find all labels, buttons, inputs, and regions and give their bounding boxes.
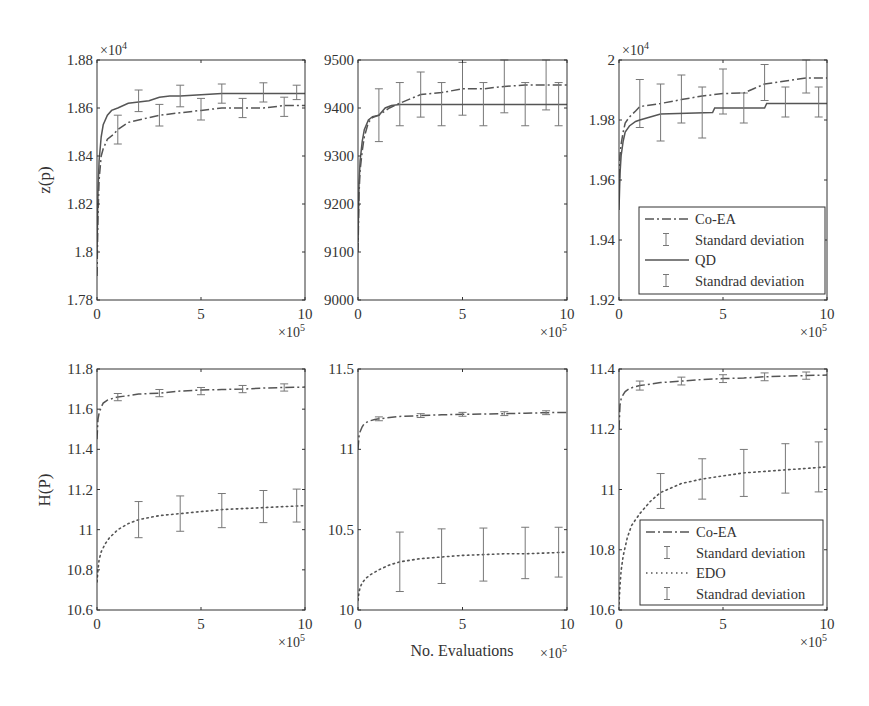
y-tick-label: 11.8 <box>67 361 93 377</box>
x-tick-label: 10 <box>560 306 575 322</box>
errorbar <box>293 489 301 522</box>
errorbar <box>218 494 226 528</box>
errorbar <box>293 85 301 99</box>
x-tick-label: 5 <box>719 306 727 322</box>
errorbar <box>802 60 810 93</box>
y-tick-label: 1.94 <box>589 232 616 248</box>
y-tick-label: 9200 <box>324 196 354 212</box>
y-tick-label: 9500 <box>324 52 354 68</box>
x-tick-label: 0 <box>354 306 362 322</box>
axes-box <box>97 60 305 300</box>
x-tick-label: 10 <box>298 306 313 322</box>
legend-label: Standrad deviation <box>696 586 806 602</box>
errorbar <box>740 449 748 496</box>
x-tick-label: 10 <box>820 616 835 632</box>
y-tick-label: 11 <box>79 522 93 538</box>
x-tick-label: 5 <box>459 306 467 322</box>
y-tick-label: 2 <box>608 52 616 68</box>
axes-box <box>358 369 567 610</box>
axis-multiplier: ×105 <box>540 322 567 340</box>
y-tick-label: 10.8 <box>589 542 615 558</box>
legend-label: QD <box>695 252 716 268</box>
series-line-qd <box>619 104 827 211</box>
y-tick-label: 11.4 <box>589 361 615 377</box>
y-tick-label: 1.84 <box>67 148 94 164</box>
errorbar <box>135 502 143 538</box>
errorbar <box>479 528 487 581</box>
y-tick-label: 1.96 <box>589 172 616 188</box>
y-tick-label: 1.78 <box>67 292 93 308</box>
errorbar <box>781 444 789 493</box>
chart-panel-bottom-right: 051010.610.81111.211.4×105Co-EAStandard … <box>589 361 835 650</box>
y-tick-label: 1.8 <box>74 244 93 260</box>
series-line-co-ea <box>97 106 305 276</box>
errorbar <box>761 65 769 101</box>
axis-multiplier: ×104 <box>100 40 127 58</box>
y-tick-label: 1.82 <box>67 196 93 212</box>
y-tick-label: 11 <box>340 441 354 457</box>
errorbar <box>657 84 665 141</box>
chart-panel-top-left: 05101.781.81.821.841.861.88×104×105 <box>67 40 313 340</box>
y-tick-label: 11.5 <box>328 361 354 377</box>
chart-panel-bottom-middle: 05101010.51111.5×105 <box>328 361 575 661</box>
series-line-edo <box>97 506 305 582</box>
y-tick-label: 1.92 <box>589 292 615 308</box>
y-tick-label: 11 <box>601 482 615 498</box>
x-tick-label: 10 <box>560 616 575 632</box>
errorbar <box>280 97 288 116</box>
legend-label: Standard deviation <box>695 232 805 248</box>
y-tick-label: 9400 <box>324 100 354 116</box>
errorbar <box>781 87 789 117</box>
errorbar <box>135 90 143 112</box>
axis-multiplier: ×105 <box>800 322 827 340</box>
errorbar <box>197 98 205 120</box>
legend-label: Co-EA <box>695 211 737 227</box>
y-tick-label: 1.86 <box>67 100 94 116</box>
x-tick-label: 10 <box>298 616 313 632</box>
series-line-edo <box>358 552 567 600</box>
y-tick-label: 11.6 <box>67 401 93 417</box>
y-tick-label: 11.2 <box>589 421 615 437</box>
x-tick-label: 5 <box>197 616 205 632</box>
x-tick-label: 0 <box>354 616 362 632</box>
xlabel: No. Evaluations <box>410 642 513 659</box>
chart-panel-top-right: 05101.921.941.961.982×104×105Co-EAStanda… <box>589 40 835 340</box>
chart-panel-bottom-left: 051010.610.81111.211.411.611.8×105 <box>67 361 313 650</box>
axis-multiplier: ×105 <box>278 632 305 650</box>
chart-panel-top-middle: 0510900091009200930094009500×105 <box>324 52 575 340</box>
y-tick-label: 10.8 <box>67 562 93 578</box>
errorbar <box>815 87 823 117</box>
legend-label: Co-EA <box>696 524 738 540</box>
errorbar <box>114 115 122 144</box>
x-tick-label: 5 <box>459 616 467 632</box>
y-tick-label: 1.88 <box>67 52 93 68</box>
x-tick-label: 0 <box>93 306 101 322</box>
errorbar <box>555 527 563 577</box>
legend-label: Standrad deviation <box>695 273 805 289</box>
axis-multiplier: ×104 <box>622 40 649 58</box>
x-tick-label: 0 <box>615 306 623 322</box>
y-tick-label: 9100 <box>324 244 354 260</box>
axis-multiplier: ×105 <box>540 643 567 661</box>
errorbar <box>259 83 267 102</box>
series-line-co-ea <box>358 412 567 449</box>
ylabel-bottom: H(P) <box>35 473 54 506</box>
axes-box <box>97 369 305 610</box>
y-tick-label: 10.6 <box>67 602 94 618</box>
errorbar <box>815 442 823 492</box>
errorbar <box>259 491 267 523</box>
x-tick-label: 5 <box>197 306 205 322</box>
y-tick-label: 11.2 <box>67 482 93 498</box>
y-tick-label: 9300 <box>324 148 354 164</box>
legend: Co-EAStandard deviationEDOStandrad devia… <box>640 520 823 605</box>
x-tick-label: 10 <box>820 306 835 322</box>
y-tick-label: 10 <box>339 602 354 618</box>
y-tick-label: 10.6 <box>589 602 616 618</box>
series-line-qd <box>358 105 567 243</box>
legend-label: EDO <box>696 565 726 581</box>
errorbar <box>197 387 205 394</box>
y-tick-label: 1.98 <box>589 112 615 128</box>
x-tick-label: 0 <box>615 616 623 632</box>
x-tick-label: 5 <box>719 616 727 632</box>
y-tick-label: 9000 <box>324 292 354 308</box>
